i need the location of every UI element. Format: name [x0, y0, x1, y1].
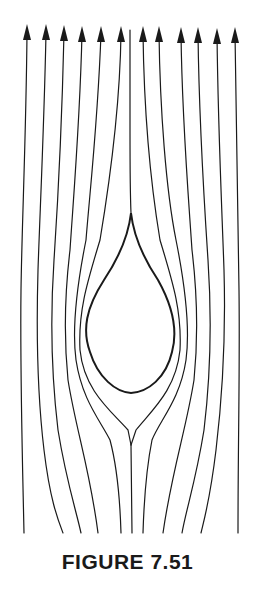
- arrow-up-icon: [194, 27, 202, 43]
- center-streamline: [130, 30, 131, 213]
- figure-caption: FIGURE 7.51: [0, 550, 255, 574]
- arrow-up-icon: [97, 26, 105, 42]
- streamline-right-5: [201, 33, 225, 533]
- streamline-left-2: [37, 33, 63, 533]
- streamline-right-2: [143, 33, 188, 533]
- arrow-up-icon: [213, 28, 221, 44]
- center-streamline-lower: [131, 445, 132, 533]
- arrow-up-icon: [231, 27, 239, 43]
- streamline-left-5: [74, 33, 121, 533]
- arrow-up-icon: [60, 25, 68, 41]
- arrow-up-icon: [23, 24, 31, 40]
- streamline-right-6: [235, 33, 239, 533]
- arrow-up-icon: [117, 26, 125, 42]
- streamline-right-3: [163, 33, 197, 533]
- arrowheads: [23, 24, 239, 44]
- arrow-up-icon: [42, 24, 50, 40]
- arrow-up-icon: [139, 26, 147, 42]
- streamline-left-6: [80, 33, 131, 445]
- streamline-left-1: [21, 33, 27, 533]
- streamline-figure: [0, 0, 255, 599]
- streamline-right-4: [182, 33, 210, 533]
- streamline-left-4: [65, 33, 98, 533]
- arrow-up-icon: [78, 26, 86, 42]
- teardrop-body: [86, 213, 174, 393]
- arrow-up-icon: [155, 26, 163, 42]
- arrow-up-icon: [177, 27, 185, 43]
